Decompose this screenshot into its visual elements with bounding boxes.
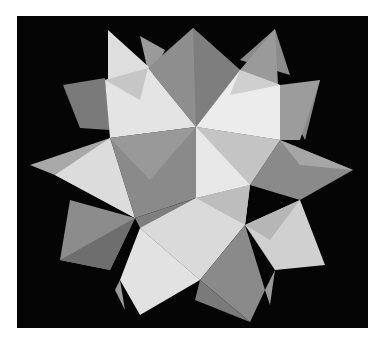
origami-polyhedron	[0, 0, 384, 342]
